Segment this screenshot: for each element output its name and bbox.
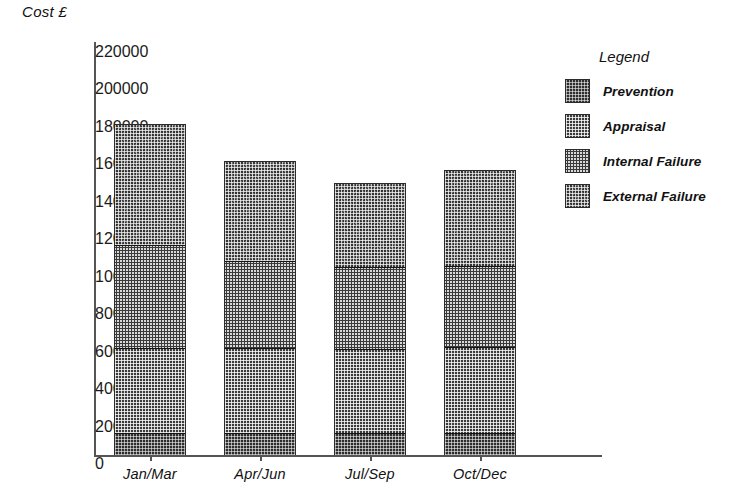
y-tick-label: 200000	[95, 80, 96, 98]
plot-area: 2200002000001800001600001400001200001000…	[95, 43, 535, 455]
legend-swatch-appraisal	[565, 114, 590, 138]
x-tick-mark	[480, 455, 482, 461]
y-tick: 180000	[95, 118, 96, 119]
x-axis-line	[94, 455, 602, 457]
bar-apr-jun[interactable]	[224, 161, 296, 455]
legend-item-prevention[interactable]: Prevention	[565, 79, 730, 103]
bar-segment-prevention[interactable]	[445, 434, 515, 455]
legend-item-external[interactable]: External Failure	[565, 184, 730, 208]
legend-swatch-prevention	[565, 79, 590, 103]
x-tick-label-apr-jun: Apr/Jun	[234, 466, 285, 482]
y-tick-label: 220000	[95, 43, 96, 61]
y-tick: 60000	[95, 343, 96, 344]
y-tick: 140000	[95, 193, 96, 194]
bar-segment-appraisal[interactable]	[335, 350, 405, 434]
y-tick-label: 180000	[95, 118, 96, 136]
y-tick: 220000	[95, 43, 96, 44]
x-tick-label-jul-sep: Jul/Sep	[345, 466, 395, 482]
bar-segment-prevention[interactable]	[115, 434, 185, 455]
bar-segment-external-failure[interactable]	[445, 171, 515, 267]
y-tick-label: 120000	[95, 230, 96, 248]
x-tick-mark	[150, 455, 152, 461]
bar-segment-appraisal[interactable]	[225, 349, 295, 434]
y-tick: 80000	[95, 305, 96, 306]
y-tick: 20000	[95, 418, 96, 419]
x-tick-mark	[370, 455, 372, 461]
legend-swatch-internal	[565, 149, 590, 173]
y-tick: 160000	[95, 155, 96, 156]
bar-segment-internal-failure[interactable]	[115, 246, 185, 349]
bar-segment-appraisal[interactable]	[445, 348, 515, 434]
legend-item-internal[interactable]: Internal Failure	[565, 149, 730, 173]
legend-swatch-external	[565, 184, 590, 208]
legend-label-external: External Failure	[603, 189, 706, 204]
legend: Legend PreventionAppraisalInternal Failu…	[565, 48, 730, 219]
bar-segment-internal-failure[interactable]	[445, 267, 515, 347]
chart-container: Cost £ 220000200000180000160000140000120…	[0, 0, 732, 503]
bar-oct-dec[interactable]	[444, 170, 516, 455]
y-tick: 120000	[95, 230, 96, 231]
y-tick: 40000	[95, 380, 96, 381]
y-tick: 100000	[95, 268, 96, 269]
bar-segment-external-failure[interactable]	[335, 184, 405, 269]
bar-segment-internal-failure[interactable]	[335, 268, 405, 349]
x-tick-mark	[260, 455, 262, 461]
bar-jan-mar[interactable]	[114, 124, 186, 455]
y-tick-label: 80000	[95, 305, 96, 323]
y-tick-label: 100000	[95, 268, 96, 286]
legend-item-appraisal[interactable]: Appraisal	[565, 114, 730, 138]
x-tick-label-oct-dec: Oct/Dec	[453, 466, 507, 482]
y-tick-label: 60000	[95, 343, 96, 361]
bar-segment-external-failure[interactable]	[115, 125, 185, 246]
bar-segment-external-failure[interactable]	[225, 162, 295, 262]
bar-segment-prevention[interactable]	[225, 434, 295, 455]
y-tick-label: 0	[95, 455, 96, 473]
x-tick-label-jan-mar: Jan/Mar	[123, 466, 177, 482]
y-tick-label: 160000	[95, 155, 96, 173]
legend-title: Legend	[599, 48, 730, 65]
y-tick-label: 140000	[95, 193, 96, 211]
y-tick-label: 40000	[95, 380, 96, 398]
legend-label-prevention: Prevention	[603, 84, 674, 99]
bar-segment-internal-failure[interactable]	[225, 262, 295, 349]
legend-items: PreventionAppraisalInternal FailureExter…	[565, 79, 730, 208]
y-tick-label: 20000	[95, 418, 96, 436]
legend-label-internal: Internal Failure	[603, 154, 701, 169]
legend-label-appraisal: Appraisal	[603, 119, 665, 134]
y-axis-title: Cost £	[22, 3, 67, 20]
bar-jul-sep[interactable]	[334, 183, 406, 455]
y-tick: 200000	[95, 80, 96, 81]
y-tick: 0	[95, 455, 96, 456]
bar-segment-prevention[interactable]	[335, 434, 405, 455]
bar-segment-appraisal[interactable]	[115, 349, 185, 434]
